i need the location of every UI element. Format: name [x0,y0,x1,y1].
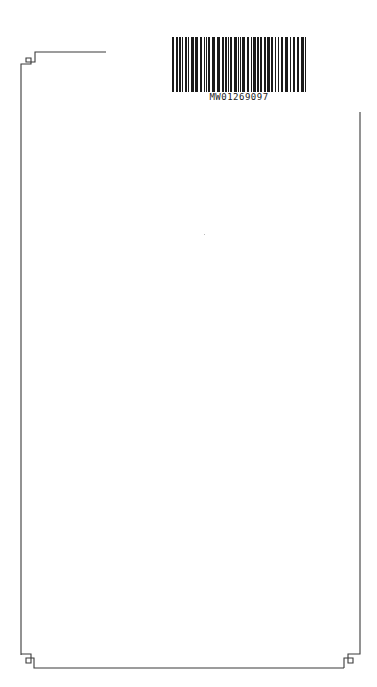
bottom-left-corner-ornament [21,654,344,668]
top-left-corner-ornament [21,52,106,655]
document-page: MW01269097 [0,0,377,687]
paper-speck [204,234,205,235]
decorative-border-frame [0,0,377,687]
bottom-right-corner-ornament [344,112,360,668]
barcode-number: MW01269097 [172,92,306,103]
barcode [172,37,306,92]
